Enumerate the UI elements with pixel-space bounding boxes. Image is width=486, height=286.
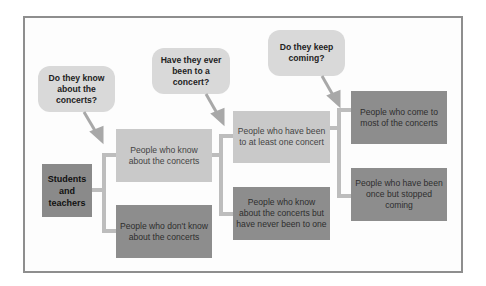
- arrow-icon: [322, 76, 339, 105]
- arrows-layer: [0, 0, 486, 286]
- arrow-icon: [84, 112, 102, 141]
- arrow-icon: [206, 94, 223, 123]
